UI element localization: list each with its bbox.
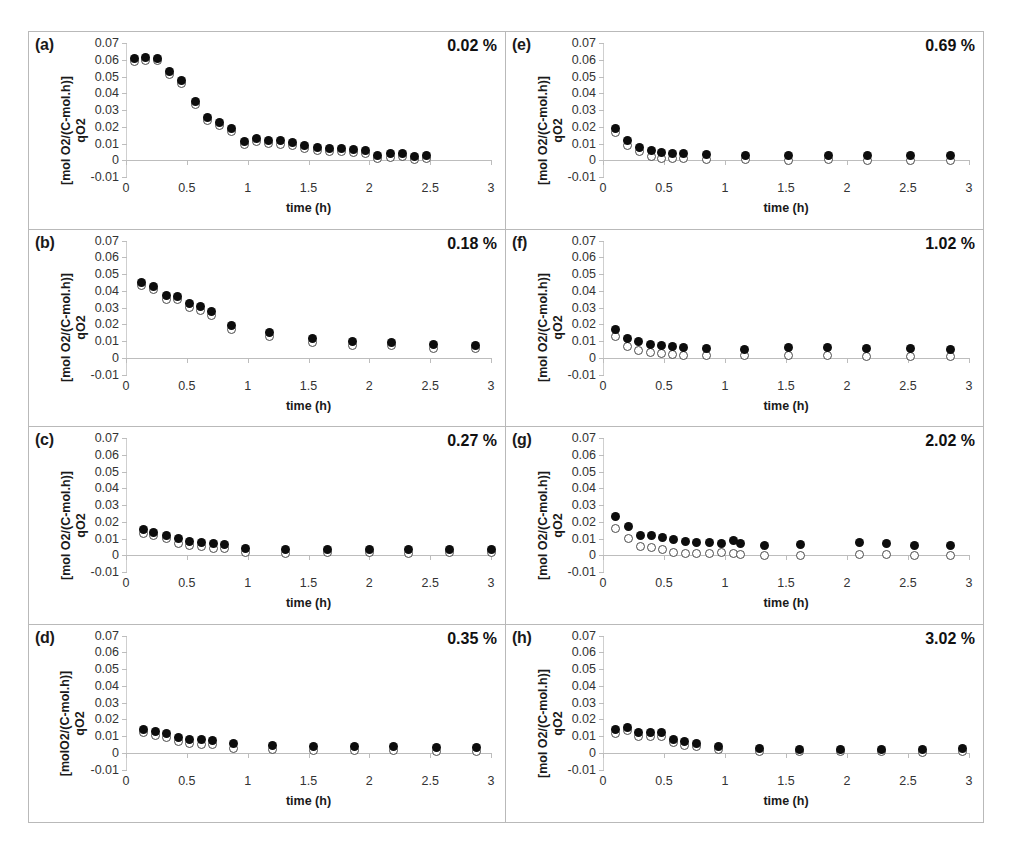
y-axis-tick-label: 0.03 bbox=[95, 498, 119, 512]
y-axis-tick-label: 0 bbox=[589, 153, 596, 167]
x-axis-tick bbox=[969, 160, 970, 165]
y-axis-tick-label: 0.05 bbox=[95, 267, 119, 281]
data-point-open bbox=[910, 551, 919, 560]
data-point-filled bbox=[669, 535, 678, 544]
panel-letter: (f) bbox=[512, 234, 527, 252]
y-axis-tick-label: 0.02 bbox=[95, 120, 119, 134]
data-point-filled bbox=[445, 545, 454, 554]
y-axis-tick-label: -0.01 bbox=[568, 368, 597, 382]
x-axis-tick bbox=[908, 753, 909, 758]
data-point-filled bbox=[717, 539, 726, 548]
y-axis-tick-label: 0.07 bbox=[572, 629, 596, 643]
y-axis-tick-label: 0.06 bbox=[95, 645, 119, 659]
x-axis-tick bbox=[248, 358, 249, 363]
x-axis-tick bbox=[187, 555, 188, 560]
y-axis-title: qO2[mol O2/(C-mol.h)] bbox=[528, 230, 572, 427]
data-point-filled bbox=[624, 522, 633, 531]
x-axis-tick-label: 3 bbox=[966, 379, 973, 393]
data-point-filled bbox=[252, 134, 261, 143]
y-axis-tick bbox=[599, 375, 604, 376]
data-point-filled bbox=[796, 540, 805, 549]
y-axis-tick-label: 0.04 bbox=[95, 86, 119, 100]
x-axis-tick bbox=[187, 160, 188, 165]
x-axis-tick bbox=[847, 160, 848, 165]
data-point-filled bbox=[386, 149, 395, 158]
x-axis-tick bbox=[847, 555, 848, 560]
data-point-filled bbox=[365, 545, 374, 554]
y-axis-title: qO2[mol O2/(C-mol.h)] bbox=[528, 32, 572, 229]
y-axis-tick-label: 0.03 bbox=[95, 301, 119, 315]
x-axis-title: time (h) bbox=[126, 596, 491, 610]
x-axis-tick-label: 2 bbox=[366, 181, 373, 195]
y-axis-tick bbox=[599, 719, 604, 720]
x-axis-tick bbox=[664, 358, 665, 363]
data-point-filled bbox=[623, 723, 632, 732]
data-point-filled bbox=[174, 733, 183, 742]
y-axis-tick-label: 0.02 bbox=[572, 515, 596, 529]
y-axis-tick-label: 0.03 bbox=[572, 301, 596, 315]
y-axis-tick-label: 0.03 bbox=[572, 498, 596, 512]
data-point-filled bbox=[141, 53, 150, 62]
data-point-filled bbox=[432, 743, 441, 752]
y-axis-title: qO2[molO2/(C-mol.h)] bbox=[51, 625, 95, 823]
data-point-filled bbox=[309, 742, 318, 751]
data-point-filled bbox=[635, 143, 644, 152]
y-axis-tick bbox=[122, 703, 127, 704]
y-axis-tick bbox=[122, 60, 127, 61]
y-axis-tick-label: 0.04 bbox=[572, 284, 596, 298]
x-axis-tick-label: 0 bbox=[123, 774, 130, 788]
data-point-filled bbox=[471, 341, 480, 350]
y-axis-tick-label: 0 bbox=[112, 746, 119, 760]
x-axis-tick bbox=[430, 358, 431, 363]
y-axis-tick-label: 0.04 bbox=[572, 86, 596, 100]
y-axis-tick-label: 0.05 bbox=[572, 267, 596, 281]
y-axis-tick-label: -0.01 bbox=[91, 368, 120, 382]
y-axis-title: qO2[mol O2/(C-mol.h)] bbox=[51, 32, 95, 229]
data-point-filled bbox=[784, 343, 793, 352]
x-axis-tick bbox=[430, 753, 431, 758]
y-axis-title-line2: [mol O2/(C-mol.h)] bbox=[536, 471, 550, 580]
data-point-open bbox=[823, 351, 832, 360]
x-axis-tick-label: 3 bbox=[488, 181, 495, 195]
x-axis-tick bbox=[430, 160, 431, 165]
y-axis-tick bbox=[122, 308, 127, 309]
y-axis-tick bbox=[122, 375, 127, 376]
data-point-filled bbox=[679, 343, 688, 352]
data-point-filled bbox=[611, 124, 620, 133]
y-axis-tick bbox=[122, 93, 127, 94]
x-axis-tick bbox=[664, 753, 665, 758]
x-axis-title: time (h) bbox=[126, 794, 491, 808]
data-point-filled bbox=[611, 725, 620, 734]
y-axis-title: qO2[mol O2/(C-mol.h)] bbox=[528, 625, 572, 823]
x-axis-tick-label: 1 bbox=[722, 181, 729, 195]
y-axis-tick bbox=[599, 43, 604, 44]
y-axis-tick-label: 0 bbox=[112, 351, 119, 365]
data-point-open bbox=[717, 548, 726, 557]
data-point-filled bbox=[906, 344, 915, 353]
data-point-filled bbox=[203, 113, 212, 122]
data-point-open bbox=[647, 543, 656, 552]
y-axis-tick bbox=[599, 686, 604, 687]
x-axis-tick bbox=[491, 358, 492, 363]
y-axis-tick-label: 0.01 bbox=[95, 334, 119, 348]
y-axis-tick bbox=[122, 669, 127, 670]
x-axis-tick-label: 3 bbox=[488, 379, 495, 393]
y-axis-tick bbox=[599, 669, 604, 670]
data-point-filled bbox=[337, 144, 346, 153]
data-point-filled bbox=[196, 302, 205, 311]
x-axis-tick bbox=[491, 753, 492, 758]
y-axis-tick-label: 0.02 bbox=[95, 712, 119, 726]
x-axis-tick bbox=[908, 555, 909, 560]
x-axis-tick bbox=[126, 753, 127, 758]
x-axis-tick-label: 2 bbox=[366, 576, 373, 590]
y-axis-tick-label: 0.05 bbox=[95, 662, 119, 676]
y-axis-tick bbox=[599, 652, 604, 653]
y-axis-tick-label: 0.02 bbox=[95, 317, 119, 331]
y-axis-tick bbox=[599, 93, 604, 94]
x-axis-tick-label: 1.5 bbox=[777, 774, 794, 788]
x-axis-tick-label: 0.5 bbox=[655, 576, 672, 590]
x-axis-tick-label: 1.5 bbox=[777, 379, 794, 393]
y-axis-tick-label: 0 bbox=[589, 351, 596, 365]
y-axis-tick-label: 0.06 bbox=[572, 645, 596, 659]
data-point-filled bbox=[162, 291, 171, 300]
